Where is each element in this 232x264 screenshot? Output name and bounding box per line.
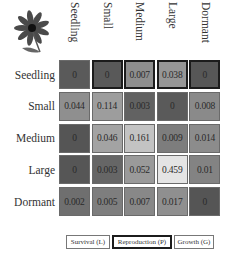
row-header-seedling: Seedling [0,60,55,89]
heatmap-cell-dormant-seedling: 0.002 [59,187,90,216]
heatmap-cell-large-seedling: 0 [59,155,90,184]
column-header-label: Dormant [199,2,211,43]
legend-survival: Survival (L) [66,235,110,249]
heatmap-cell-seedling-medium: 0.007 [124,60,155,89]
heatmap-cell-seedling-dormant: 0 [189,60,220,89]
column-header-medium: Medium [124,2,155,56]
heatmap-cell-dormant-dormant: 0 [189,187,220,216]
heatmap-cell-small-small: 0.114 [92,92,123,121]
column-header-seedling: Seedling [59,2,90,56]
heatmap-cell-dormant-small: 0.005 [92,187,123,216]
heatmap-cell-medium-dormant: 0.014 [189,124,220,153]
heatmap-cell-dormant-medium: 0.007 [124,187,155,216]
heatmap-cell-dormant-large: 0.017 [157,187,188,216]
heatmap-cell-large-large: 0.459 [157,155,188,184]
heatmap-cell-small-seedling: 0.044 [59,92,90,121]
column-header-dormant: Dormant [189,2,220,56]
heatmap-cell-medium-small: 0.046 [92,124,123,153]
column-header-label: Small [101,2,113,29]
column-header-label: Large [167,2,179,29]
row-header-medium: Medium [0,124,55,153]
column-header-label: Seedling [69,2,81,42]
legend-growth: Growth (G) [174,235,214,249]
row-header-small: Small [0,92,55,121]
heatmap-cell-large-dormant: 0.01 [189,155,220,184]
heatmap-cell-small-large: 0 [157,92,188,121]
heatmap-cell-seedling-seedling: 0 [59,60,90,89]
heatmap-cell-medium-medium: 0.161 [124,124,155,153]
heatmap-cell-medium-seedling: 0 [59,124,90,153]
heatmap-cell-medium-large: 0.009 [157,124,188,153]
heatmap-cell-seedling-small: 0 [92,60,123,89]
heatmap-cell-large-medium: 0.052 [124,155,155,184]
heatmap-cell-small-medium: 0.003 [124,92,155,121]
legend-repro: Reproduction (P) [112,235,172,249]
row-header-dormant: Dormant [0,187,55,216]
column-header-small: Small [92,2,123,56]
column-header-large: Large [157,2,188,56]
row-header-large: Large [0,155,55,184]
heatmap-cell-large-small: 0.003 [92,155,123,184]
heatmap-cell-seedling-large: 0.038 [157,60,188,89]
flower-icon [12,10,52,56]
heatmap-cell-small-dormant: 0.008 [189,92,220,121]
column-header-label: Medium [134,2,146,41]
